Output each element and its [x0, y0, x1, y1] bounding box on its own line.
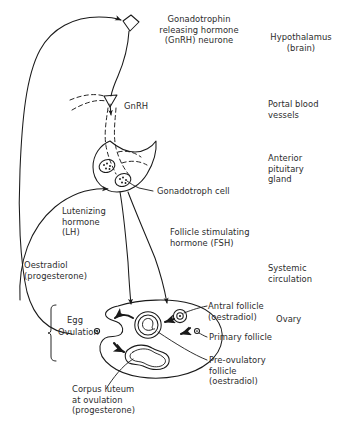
corpus-luteum-label: Corpus luteum at ovulation (progesterone… [72, 384, 182, 416]
primary-follicle-label: Primary follicle [209, 332, 299, 343]
ovulation-label: Ovulation [58, 327, 118, 338]
ovulation-bracket-icon [48, 305, 56, 361]
anterior-pituitary-icon [93, 141, 156, 192]
primary-leader-line [199, 333, 207, 337]
ovary-region-label: Ovary [276, 314, 336, 325]
preovulatory-follicle-icon [135, 312, 161, 338]
gnrh-neurone-icon [104, 15, 139, 107]
gnrh-label: GnRH [124, 101, 174, 112]
fsh-label: Follicle stimulating hormone (FSH) [170, 227, 270, 248]
preovulatory-leader-line [158, 332, 207, 360]
systemic-circulation-region-label: Systemic circulation [268, 263, 340, 284]
hpo-axis-diagram: Gonadotrophin releasing hormone (GnRH) n… [0, 0, 341, 425]
oestradiol-label: Oestradiol (progesterone) [24, 260, 116, 281]
corpus-luteum-icon [125, 345, 169, 369]
egg-label: Egg [67, 315, 97, 326]
gonadotroph-cell-label: Gonadotroph cell [157, 186, 257, 197]
anterior-pituitary-region-label: Anterior pituitary gland [268, 153, 340, 185]
hypothalamus-region-label: Hypothalamus (brain) [262, 32, 340, 53]
preovulatory-follicle-label: Pre-ovulatory follicle (oestradiol) [209, 355, 293, 387]
antral-follicle-icon [173, 309, 186, 322]
lh-label: Lutenizing hormone (LH) [62, 206, 134, 238]
gnrh-neurone-label: Gonadotrophin releasing hormone (GnRH) n… [144, 14, 254, 46]
oestradiol-feedback-arrow [19, 17, 121, 334]
antral-leader-line [184, 306, 207, 313]
portal-vessels-region-label: Portal blood vessels [268, 99, 340, 120]
